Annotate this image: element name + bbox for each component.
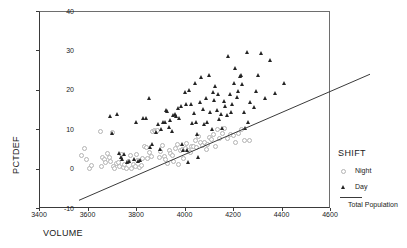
x-tick-label: 3600 bbox=[68, 211, 108, 218]
x-tick-label: 4400 bbox=[262, 211, 302, 218]
legend-item-day[interactable]: Day bbox=[338, 181, 407, 193]
y-tick-label: 40 bbox=[34, 8, 74, 15]
legend-title: SHIFT bbox=[338, 148, 407, 158]
x-tick-label: 4200 bbox=[213, 211, 253, 218]
y-tick-label: 20 bbox=[34, 86, 74, 93]
legend: SHIFT Night Day Total Population bbox=[338, 148, 407, 208]
scatter-plot-chart: PCTDEF VOLUME -1001020304034003600380040… bbox=[0, 0, 407, 248]
y-axis-title: PCTDEF bbox=[11, 125, 21, 185]
trend-line-icon bbox=[340, 197, 362, 198]
y-tick-label: 10 bbox=[34, 126, 74, 133]
night-marker-icon bbox=[338, 169, 355, 174]
legend-label-night: Night bbox=[355, 167, 371, 175]
y-tick-label: 0 bbox=[34, 165, 74, 172]
legend-item-night[interactable]: Night bbox=[338, 165, 407, 177]
plot-area bbox=[39, 11, 330, 208]
legend-label-total-population: Total Population bbox=[348, 201, 407, 208]
legend-item-total-population[interactable]: Total Population bbox=[338, 197, 407, 208]
x-tick-label: 4600 bbox=[310, 211, 350, 218]
x-tick-label: 4000 bbox=[165, 211, 205, 218]
x-axis-title: VOLUME bbox=[43, 228, 83, 238]
x-tick-label: 3400 bbox=[19, 211, 59, 218]
day-marker-icon bbox=[338, 185, 355, 189]
y-tick-label: 30 bbox=[34, 47, 74, 54]
total-population-trend-line bbox=[79, 23, 370, 220]
x-tick-label: 3800 bbox=[116, 211, 156, 218]
legend-label-day: Day bbox=[355, 183, 367, 191]
